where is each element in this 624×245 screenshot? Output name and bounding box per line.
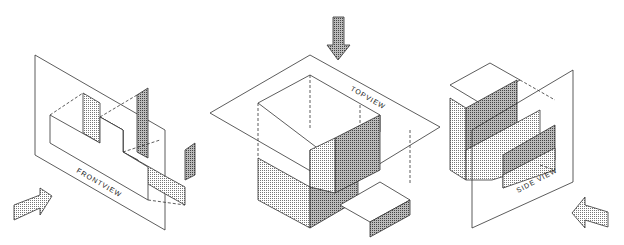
side-arrow-icon	[572, 197, 608, 228]
top-block-left-face	[258, 158, 310, 228]
projection-diagram: FRONTVIEW TOPVIEW	[0, 0, 624, 245]
top-view-group: TOPVIEW	[210, 17, 440, 237]
top-view-label: TOPVIEW	[350, 85, 387, 111]
side-view-group: SIDE VIEW	[450, 63, 608, 228]
top-arrow-icon	[327, 17, 350, 60]
side-block-left-face	[450, 98, 466, 180]
front-arrow-icon	[14, 188, 52, 220]
front-view-group: FRONTVIEW	[14, 55, 195, 230]
